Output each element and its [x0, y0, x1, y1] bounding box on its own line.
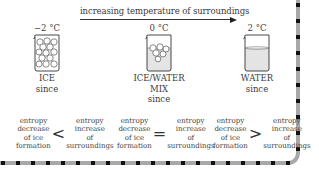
since-label: since	[228, 84, 286, 94]
comparison-water: entropydecrease of iceformation > entrop…	[213, 117, 310, 151]
comparison-ice: entropydecrease of iceformation < entrop…	[16, 117, 113, 151]
since-label: since	[18, 84, 76, 94]
temperature-label: 2 °C	[228, 23, 286, 33]
ice-water-mix-column: 0 °C ICE/WATER MIX since	[124, 23, 194, 104]
temperature-label: −2 °C	[18, 23, 76, 33]
state-label: ICE/WATER	[124, 73, 194, 83]
entropy-increase-text: entropyincrease ofsurroundings	[167, 117, 214, 151]
less-than-sign: <	[52, 124, 65, 143]
entropy-decrease-text: entropydecrease of iceformation	[117, 117, 152, 151]
state-label: ICE	[18, 73, 76, 83]
beaker-ice-water-icon	[144, 34, 174, 72]
entropy-decrease-text: entropydecrease of iceformation	[213, 117, 248, 151]
beaker-water-icon	[242, 34, 272, 72]
entropy-decrease-text: entropydecrease of iceformation	[16, 117, 51, 151]
frame-border-bottom	[0, 161, 290, 165]
arrow-right-icon	[230, 17, 237, 23]
greater-than-sign: >	[249, 124, 262, 143]
state-label-line2: MIX	[124, 84, 194, 94]
equals-sign: =	[153, 124, 166, 143]
comparison-mix: entropydecrease of iceformation = entrop…	[117, 117, 214, 151]
temperature-label: 0 °C	[124, 23, 194, 33]
entropy-increase-text: entropyincrease ofsurroundings	[263, 117, 310, 151]
entropy-increase-text: entropyincrease ofsurroundings	[66, 117, 113, 151]
ice-column: −2 °C ICE since	[18, 23, 76, 94]
beaker-ice-icon	[32, 34, 62, 72]
state-label: WATER	[228, 73, 286, 83]
water-column: 2 °C WATER since	[228, 23, 286, 94]
since-label: since	[124, 94, 194, 104]
arrow-line	[80, 19, 232, 20]
arrow-label: increasing temperature of surroundings	[80, 6, 249, 16]
